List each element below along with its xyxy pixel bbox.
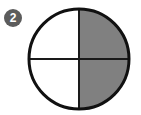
fraction-circle-diagram: 2 [0,0,141,115]
fraction-circle-graphic [0,0,141,115]
